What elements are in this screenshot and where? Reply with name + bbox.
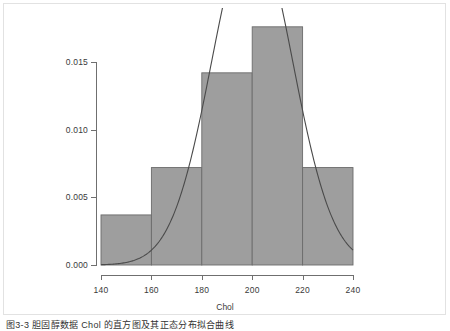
x-axis-title: Chol bbox=[0, 302, 450, 312]
figure-caption: 图3-3 胆固醇数据 Chol 的直方图及其正态分布拟合曲线 bbox=[6, 318, 446, 331]
x-axis-tick-label: 140 bbox=[81, 285, 121, 295]
x-axis-tick bbox=[252, 275, 253, 280]
y-axis-tick-label: 0.010 bbox=[42, 125, 88, 135]
y-axis-tick bbox=[91, 197, 96, 198]
x-axis-tick-label: 220 bbox=[283, 285, 323, 295]
x-axis-tick-label: 200 bbox=[232, 285, 272, 295]
y-axis-line bbox=[96, 62, 97, 266]
histogram-bar bbox=[202, 73, 252, 265]
histogram-bar bbox=[101, 215, 151, 265]
x-axis-line bbox=[101, 275, 353, 276]
y-axis-tick-label: 0.015 bbox=[42, 57, 88, 67]
y-axis-tick bbox=[91, 265, 96, 266]
x-axis-tick-label: 180 bbox=[182, 285, 222, 295]
x-axis-tick bbox=[353, 275, 354, 280]
y-axis-tick-label: 0.000 bbox=[42, 260, 88, 270]
x-axis-tick bbox=[303, 275, 304, 280]
x-axis-tick-label: 160 bbox=[131, 285, 171, 295]
y-axis-tick-label: 0.005 bbox=[42, 192, 88, 202]
y-axis-tick bbox=[91, 130, 96, 131]
y-axis-tick bbox=[91, 62, 96, 63]
histogram-bar bbox=[151, 168, 201, 265]
histogram-bar bbox=[252, 27, 302, 265]
x-axis-tick bbox=[202, 275, 203, 280]
x-axis-tick-label: 240 bbox=[333, 285, 373, 295]
x-axis-tick bbox=[101, 275, 102, 280]
x-axis-tick bbox=[151, 275, 152, 280]
histogram-bar bbox=[303, 168, 353, 265]
